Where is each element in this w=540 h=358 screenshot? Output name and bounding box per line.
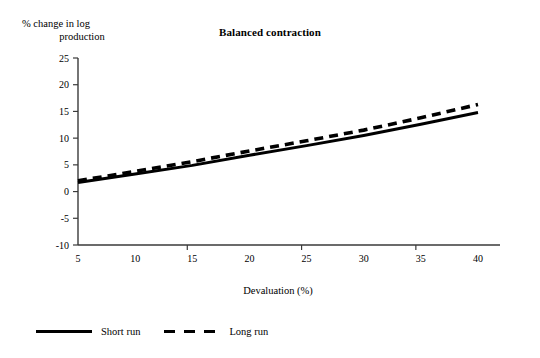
svg-text:35: 35 [416,253,426,264]
x-axis-ticks: 510152025303540 [76,245,484,264]
svg-text:15: 15 [59,106,69,117]
svg-text:40: 40 [473,253,483,264]
y-axis-ticks: 2520151050-5-10 [56,53,78,251]
svg-text:-10: -10 [56,240,69,251]
svg-text:5: 5 [76,253,81,264]
legend-label-short-run: Short run [101,326,140,337]
plot-area: 2520151050-5-10 510152025303540 [0,0,540,358]
chart-figure: Balanced contraction % change in log pro… [0,0,540,358]
svg-text:25: 25 [302,253,312,264]
legend-item-long-run: Long run [164,326,292,337]
legend-item-short-run: Short run [36,326,164,337]
svg-text:15: 15 [187,253,197,264]
svg-text:5: 5 [64,159,69,170]
svg-text:25: 25 [59,53,69,64]
legend-label-long-run: Long run [229,326,268,337]
svg-text:20: 20 [59,79,69,90]
x-axis-title: Devaluation (%) [78,285,478,296]
svg-text:30: 30 [359,253,369,264]
series-line-long-run [78,104,478,180]
chart-legend: Short run Long run [36,326,292,337]
svg-text:0: 0 [64,186,69,197]
legend-swatch-solid-icon [36,330,92,333]
svg-text:10: 10 [130,253,140,264]
svg-text:20: 20 [244,253,254,264]
legend-swatch-dashed-icon [164,330,220,334]
svg-text:10: 10 [59,133,69,144]
axes [78,58,500,245]
data-series [78,104,478,182]
svg-text:-5: -5 [61,213,69,224]
